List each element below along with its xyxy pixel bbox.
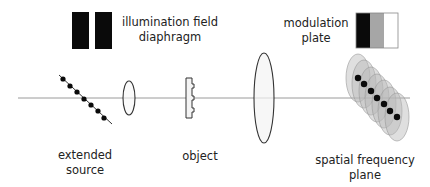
label-extended-source: extended source	[55, 148, 115, 178]
spatial-frequency-plane-icon	[346, 54, 409, 141]
objective-lens-icon	[254, 53, 274, 143]
illumination-field-diaphragm-icon	[72, 12, 112, 49]
label-source-line2: source	[55, 163, 115, 178]
label-illumination-line1: illumination field	[120, 15, 220, 30]
label-object: object	[175, 149, 225, 164]
label-sfp-line1: spatial frequency	[315, 153, 415, 168]
label-modulation-line1: modulation	[280, 16, 352, 31]
condenser-lens-icon	[123, 81, 135, 115]
extended-source-icon	[59, 75, 112, 124]
label-modulation-plate: modulation plate	[280, 16, 352, 46]
label-source-line1: extended	[55, 148, 115, 163]
object-icon	[186, 78, 194, 118]
label-object-text: object	[175, 149, 225, 164]
label-illumination-field-diaphragm: illumination field diaphragm	[120, 15, 220, 45]
label-illumination-line2: diaphragm	[120, 30, 220, 45]
modulation-plate-icon	[356, 13, 398, 48]
label-sfp-line2: plane	[315, 168, 415, 183]
label-spatial-frequency-plane: spatial frequency plane	[315, 153, 415, 183]
label-modulation-line2: plate	[280, 31, 352, 46]
